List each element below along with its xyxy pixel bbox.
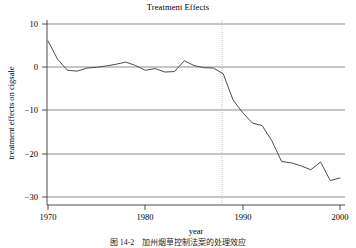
- y-axis-ticks: 10 0 −10 −20 −30: [25, 19, 47, 202]
- x-tick-label: 1980: [137, 212, 154, 222]
- x-tick-label: 1990: [235, 212, 252, 222]
- x-tick-label: 1970: [40, 212, 57, 222]
- figure-caption: 图 14-2 加州烟草控制法案的处理效应: [0, 236, 356, 247]
- x-tick-label: 2000: [332, 212, 349, 222]
- y-tick-label: 10: [30, 19, 39, 29]
- y-tick-label: 0: [34, 62, 38, 72]
- line-series-treatment-effect: [48, 41, 340, 181]
- y-tick-label: −20: [25, 149, 38, 159]
- plot-area: 10 0 −10 −20 −30 1970 1980 1990 2000 yea…: [0, 0, 356, 248]
- y-axis-title: treatment effects on cigsale: [6, 66, 16, 159]
- gridlines: [47, 24, 345, 197]
- x-axis-ticks: 1970 1980 1990 2000: [40, 205, 349, 222]
- y-tick-label: −10: [25, 105, 38, 115]
- x-axis-title: year: [189, 226, 204, 236]
- chart-figure: Treatment Effects 10 0 −10 −20 −30: [0, 0, 356, 248]
- y-tick-label: −30: [25, 192, 38, 202]
